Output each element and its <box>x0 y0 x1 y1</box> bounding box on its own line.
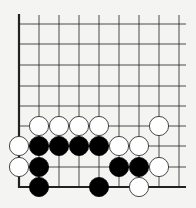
black-stone[interactable] <box>89 136 108 155</box>
white-stone[interactable] <box>9 136 28 155</box>
black-stone[interactable] <box>49 136 68 155</box>
black-stone[interactable] <box>129 157 148 176</box>
black-stone[interactable] <box>89 177 108 196</box>
white-stone[interactable] <box>149 116 168 135</box>
white-stone[interactable] <box>9 157 28 176</box>
white-stone[interactable] <box>69 116 88 135</box>
white-stone[interactable] <box>149 157 168 176</box>
black-stone[interactable] <box>29 177 48 196</box>
white-stone[interactable] <box>109 136 128 155</box>
go-board[interactable] <box>0 0 196 208</box>
black-stone[interactable] <box>69 136 88 155</box>
black-stone[interactable] <box>29 136 48 155</box>
black-stone[interactable] <box>109 157 128 176</box>
white-stone[interactable] <box>29 116 48 135</box>
white-stone[interactable] <box>89 116 108 135</box>
stones-layer <box>9 116 168 196</box>
black-stone[interactable] <box>29 157 48 176</box>
white-stone[interactable] <box>129 136 148 155</box>
white-stone[interactable] <box>129 177 148 196</box>
white-stone[interactable] <box>49 116 68 135</box>
